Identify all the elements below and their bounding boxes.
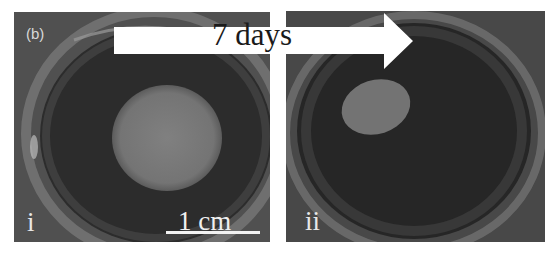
scale-bar	[166, 231, 260, 234]
figure-panel-label: (b)	[26, 25, 44, 42]
panel-label-i: i	[27, 207, 35, 238]
panel-label-ii: ii	[305, 206, 320, 237]
arrow-label: 7 days	[212, 17, 292, 53]
